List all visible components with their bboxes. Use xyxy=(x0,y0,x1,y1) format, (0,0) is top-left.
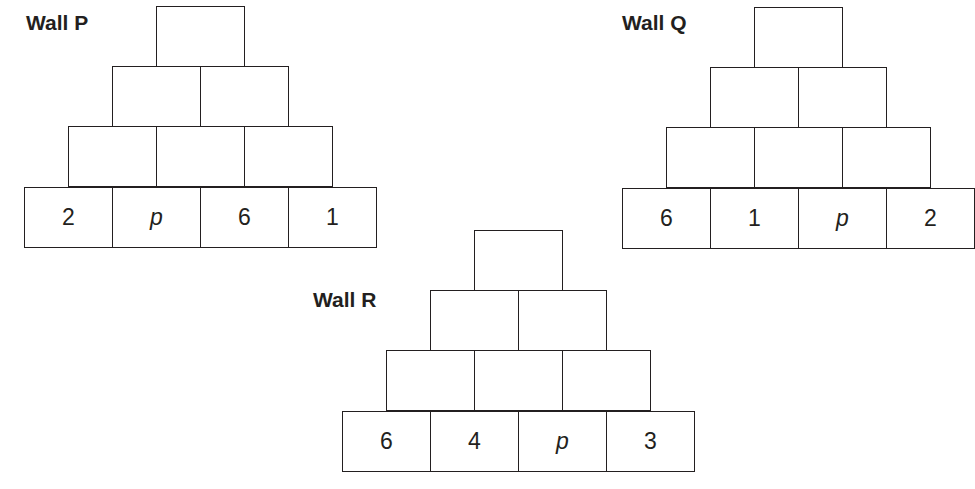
wall-q-brick-r1-c1 xyxy=(798,67,887,128)
wall-p-brick-r2-c0 xyxy=(68,126,157,187)
wall-p-brick-r3-c0: 2 xyxy=(24,187,113,248)
wall-r-brick-r2-c1 xyxy=(474,350,563,411)
wall-p-brick-r3-c2: 6 xyxy=(200,187,289,248)
wall-p-label: Wall P xyxy=(26,11,88,35)
wall-r-brick-r1-c1 xyxy=(518,290,607,351)
wall-p-brick-r2-c2 xyxy=(244,126,333,187)
wall-q-brick-r3-c3: 2 xyxy=(886,188,975,249)
wall-q-brick-r2-c2 xyxy=(842,127,931,188)
wall-p-brick-r3-c1: p xyxy=(112,187,201,248)
wall-r-brick-r1-c0 xyxy=(430,290,519,351)
wall-p-brick-r3-c3: 1 xyxy=(288,187,377,248)
wall-q-brick-r3-c2: p xyxy=(798,188,887,249)
wall-r-label: Wall R xyxy=(313,288,376,312)
wall-p-brick-r0-c0 xyxy=(156,6,245,67)
wall-q-brick-r1-c0 xyxy=(710,67,799,128)
wall-q-label: Wall Q xyxy=(622,11,687,35)
wall-p-brick-r1-c1 xyxy=(200,66,289,127)
wall-r-brick-r2-c0 xyxy=(386,350,475,411)
wall-r-brick-r3-c3: 3 xyxy=(606,411,695,472)
wall-r-brick-r2-c2 xyxy=(562,350,651,411)
wall-q-brick-r2-c1 xyxy=(754,127,843,188)
wall-r-brick-r3-c0: 6 xyxy=(342,411,431,472)
wall-r-brick-r3-c1: 4 xyxy=(430,411,519,472)
wall-p-brick-r1-c0 xyxy=(112,66,201,127)
wall-r-brick-r3-c2: p xyxy=(518,411,607,472)
wall-p-brick-r2-c1 xyxy=(156,126,245,187)
wall-q-brick-r2-c0 xyxy=(666,127,755,188)
wall-q-brick-r3-c0: 6 xyxy=(622,188,711,249)
wall-q-brick-r3-c1: 1 xyxy=(710,188,799,249)
wall-r-brick-r0-c0 xyxy=(474,230,563,291)
wall-q-brick-r0-c0 xyxy=(754,7,843,68)
